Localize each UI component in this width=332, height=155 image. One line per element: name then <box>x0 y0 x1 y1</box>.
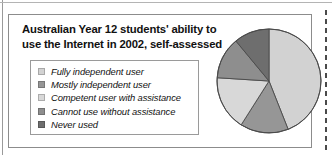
legend-swatch-competent-user-with-assistance <box>38 94 45 101</box>
legend-swatch-fully-independent-user <box>38 68 45 75</box>
legend-item: Fully independent user <box>31 65 198 78</box>
legend-item-label: Mostly independent user <box>51 79 151 90</box>
chart-legend: Fully independent userMostly independent… <box>30 60 199 135</box>
pie-chart-svg <box>215 25 323 137</box>
chart-title-line-2: use the Internet in 2002, self-assessed <box>22 37 218 52</box>
chart-figure-box: Australian Year 12 students' ability to … <box>8 14 312 148</box>
pie-chart <box>215 25 323 137</box>
page-left-rule <box>2 0 3 155</box>
legend-item-label: Fully independent user <box>51 66 144 77</box>
legend-item: Cannot use without assistance <box>31 105 198 118</box>
legend-item: Competent user with assistance <box>31 91 198 104</box>
figure-page: Australian Year 12 students' ability to … <box>0 0 332 155</box>
legend-swatch-mostly-independent-user <box>38 81 45 88</box>
legend-swatch-never-used <box>38 121 45 128</box>
page-right-dashed-rule <box>325 10 327 150</box>
page-top-rule <box>0 2 332 3</box>
legend-item-label: Never used <box>51 119 98 130</box>
legend-item: Never used <box>31 118 198 131</box>
chart-title: Australian Year 12 students' ability to … <box>22 22 218 52</box>
legend-item-label: Cannot use without assistance <box>51 106 175 117</box>
chart-title-line-1: Australian Year 12 students' ability to <box>22 22 218 37</box>
legend-item: Mostly independent user <box>31 78 198 91</box>
legend-swatch-cannot-use-without-assistance <box>38 108 45 115</box>
legend-item-label: Competent user with assistance <box>51 92 181 103</box>
